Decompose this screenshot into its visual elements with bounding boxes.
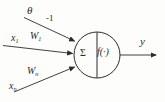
label-theta: θ [27,5,32,16]
neuron-diagram-figure: θ -1 x1 W1 Wn xn Σ f(·) y [0,0,165,102]
input-1-edge [3,46,73,54]
label-output: y [140,36,145,47]
label-input-1-subscript: 1 [15,37,18,44]
label-activation-function: f(·) [97,47,109,57]
label-input-n-subscript: n [13,85,16,92]
label-weight-n-subscript: n [35,70,38,77]
label-weight-n: Wn [27,66,38,76]
label-summation: Σ [80,48,86,58]
label-input-1: x1 [11,33,19,43]
label-weight-1-subscript: 1 [38,35,41,42]
label-weight-1: W1 [30,31,41,41]
label-bias-weight: -1 [46,14,54,23]
input-n-edge [14,67,75,92]
label-input-n: xn [9,81,17,91]
